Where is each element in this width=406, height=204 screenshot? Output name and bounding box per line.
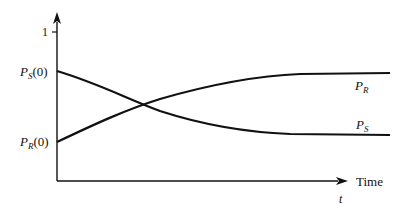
ps-curve [57, 71, 390, 135]
pr0-label: PR(0) [19, 134, 49, 151]
y-tick-label-1: 1 [42, 25, 48, 39]
x-axis-symbol: t [339, 192, 343, 204]
chart: 1 PS(0) PR(0) PR PS Time t [0, 0, 406, 204]
ps0-label: PS(0) [19, 64, 48, 81]
pr-curve [57, 73, 390, 142]
ps-curve-label: PS [355, 117, 369, 134]
pr-curve-label: PR [354, 78, 369, 95]
x-axis-label: Time [356, 174, 383, 189]
